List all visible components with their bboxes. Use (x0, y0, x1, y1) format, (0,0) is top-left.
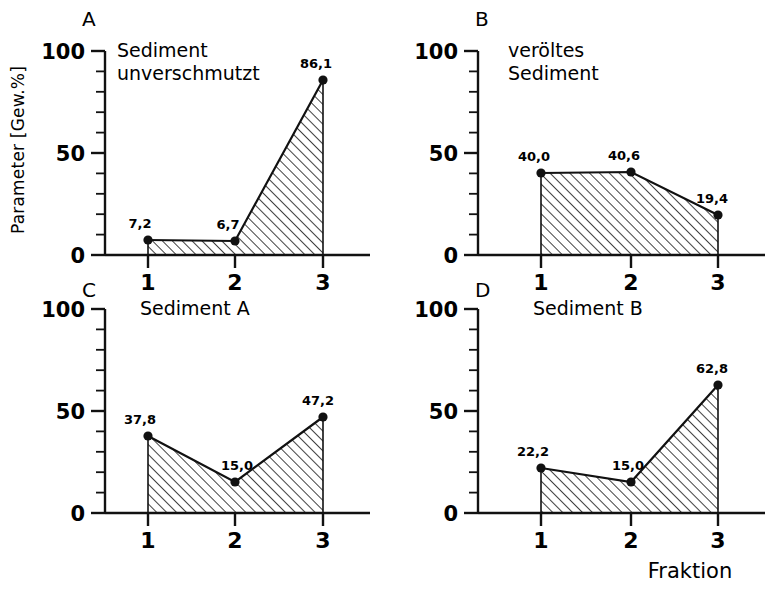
panel-b-ylabel-0: 0 (443, 244, 458, 268)
panel-a-xlabel-1: 1 (140, 270, 155, 295)
panel-a-ylabel-100: 100 (41, 40, 85, 64)
panel-c-point-3 (318, 412, 327, 421)
panel-b-title-line2: Sediment (508, 62, 599, 84)
panel-a-ylabel-50: 50 (56, 142, 85, 166)
panel-c-ylabel-100: 100 (41, 298, 85, 322)
panel-c-xlabel-1: 1 (140, 528, 155, 553)
panel-a-xlabel-3: 3 (315, 270, 330, 295)
panel-c-xlabel-3: 3 (315, 528, 330, 553)
panel-c-point-1 (143, 431, 152, 440)
panel-a-point-3 (318, 75, 327, 84)
panel-c-xlabel-2: 2 (227, 528, 242, 553)
panel-a-xlabel-2: 2 (227, 270, 242, 295)
panel-d-xlabel-3: 3 (710, 528, 725, 553)
panel-a-title-line2: unverschmutzt (117, 62, 260, 84)
panel-b-ylabel-50: 50 (429, 142, 458, 166)
panel-d-ylabel-0: 0 (443, 502, 458, 526)
panel-c-title-line1: Sediment A (140, 297, 250, 319)
panel-b-point-1 (536, 168, 545, 177)
figure-container: Parameter [Gew.%] A Sediment unverschmut… (0, 0, 777, 589)
panel-d-point-2 (626, 477, 635, 486)
y-axis-title: Parameter [Gew.%] (8, 66, 28, 234)
panel-b-title-line1: veröltes (508, 39, 584, 61)
panel-d-ylabel-100: 100 (414, 298, 458, 322)
panel-c-ylabel-0: 0 (70, 502, 85, 526)
panel-b-xlabel-3: 3 (710, 270, 725, 295)
panel-a-title-line1: Sediment (117, 39, 208, 61)
panel-d-value-label-2: 15,0 (612, 458, 644, 473)
panel-d-letter: D (475, 278, 490, 302)
panel-d-value-label-3: 62,8 (696, 361, 728, 376)
panel-c-value-label-1: 37,8 (124, 412, 156, 427)
panel-a-point-2 (230, 236, 239, 245)
panel-d-point-3 (713, 380, 722, 389)
panel-a-value-label-1: 7,2 (128, 216, 151, 231)
panel-b-letter: B (475, 7, 489, 31)
panel-d-ylabel-50: 50 (429, 400, 458, 424)
panel-d-point-1 (536, 463, 545, 472)
x-axis-title: Fraktion (648, 559, 732, 583)
panel-c-value-label-3: 47,2 (302, 393, 334, 408)
panel-a-ylabel-0: 0 (70, 244, 85, 268)
panel-d-xlabel-2: 2 (623, 528, 638, 553)
panel-a-letter: A (82, 7, 96, 31)
panel-b-xlabel-1: 1 (533, 270, 548, 295)
panel-a-value-label-3: 86,1 (300, 56, 332, 71)
panel-b-point-2 (626, 167, 635, 176)
panel-b-ylabel-100: 100 (414, 40, 458, 64)
panel-a-point-1 (143, 235, 152, 244)
panel-d-title-line1: Sediment B (533, 297, 643, 319)
panel-c-value-label-2: 15,0 (221, 458, 253, 473)
panel-b-value-label-3: 19,4 (696, 191, 728, 206)
panel-d-value-label-1: 22,2 (517, 444, 549, 459)
panel-b-value-label-2: 40,6 (608, 148, 640, 163)
panel-a-value-label-2: 6,7 (216, 217, 239, 232)
panel-b-xlabel-2: 2 (623, 270, 638, 295)
panel-c-point-2 (230, 477, 239, 486)
panel-b-point-3 (713, 210, 722, 219)
panel-d-xlabel-1: 1 (533, 528, 548, 553)
panel-c-ylabel-50: 50 (56, 400, 85, 424)
panel-b-value-label-1: 40,0 (518, 149, 550, 164)
multi-panel-chart: Parameter [Gew.%] A Sediment unverschmut… (0, 0, 777, 589)
